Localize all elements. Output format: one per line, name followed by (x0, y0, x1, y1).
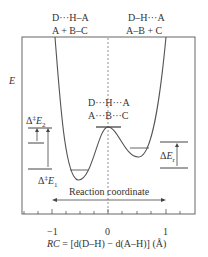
barrier1-label: Δ‡E1 (38, 173, 58, 191)
reactant-label-top: D···H–A (52, 12, 89, 23)
reactant-label-bottom: A + B–C (52, 25, 88, 36)
reaction-energy-arrowhead (175, 143, 179, 147)
arrowhead-left (52, 198, 57, 202)
product-label-top: D–H···A (128, 12, 165, 23)
reaction-coordinate-label: Reaction coordinate (69, 186, 149, 197)
x-tick-label-1: 1 (163, 226, 168, 237)
ts-label-top: D···H···A (88, 97, 130, 108)
ts-label-bottom: A···B···C (88, 110, 129, 121)
reaction-energy-label: ΔEr (160, 150, 175, 166)
x-axis-ticks (24, 209, 180, 214)
x-tick-label-0: 0 (105, 226, 110, 237)
barrier2-label: Δ‡E2 (26, 113, 46, 131)
x-tick-label-neg1: −1 (47, 226, 58, 237)
arrowhead-right (161, 198, 166, 202)
barrier1-arrowhead (46, 128, 50, 132)
product-label-bottom: A–B + C (126, 25, 162, 36)
y-axis-label: E (9, 75, 15, 86)
x-axis-label: RC = [d(D–H) − d(A–H)] (Å) (47, 238, 166, 249)
potential-energy-curve (55, 37, 166, 180)
